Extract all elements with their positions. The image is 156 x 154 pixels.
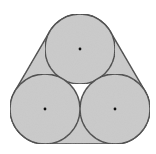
center-dot xyxy=(79,48,82,51)
circle-top xyxy=(45,14,115,84)
diagram-canvas xyxy=(0,0,156,154)
circle-bottom-right xyxy=(80,74,150,144)
three-circles-band-diagram xyxy=(0,0,156,154)
center-dot xyxy=(114,108,117,111)
center-dot xyxy=(44,108,47,111)
circle-bottom-left xyxy=(10,74,80,144)
